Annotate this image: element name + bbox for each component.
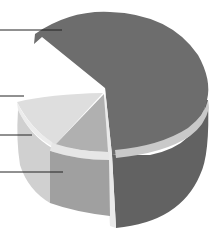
medium-segment-side: [50, 151, 110, 216]
cylinder-illustration: [0, 0, 220, 240]
layered-cylinder-diagram: [0, 0, 220, 240]
